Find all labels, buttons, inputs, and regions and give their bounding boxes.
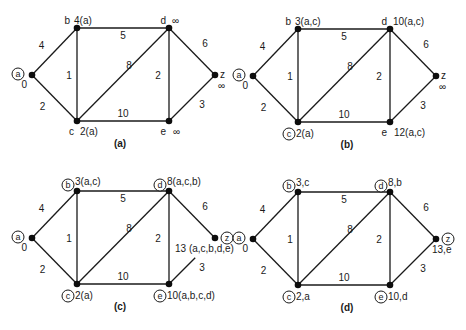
panel-caption: (b)	[341, 139, 354, 150]
panel-caption: (c)	[114, 301, 126, 312]
vertex-c	[295, 119, 302, 126]
edge-a-b	[32, 191, 77, 238]
vertex-distance-c: 2(a)	[80, 126, 98, 137]
vertex-b	[295, 189, 302, 196]
vertex-distance-z: 13,e	[432, 244, 452, 255]
edge-weight-e-z: 3	[420, 100, 426, 111]
vertex-name-a: a	[236, 70, 241, 80]
panel-caption: (d)	[341, 302, 354, 313]
vertex-name-e: e	[160, 126, 166, 137]
edge-weight-d-e: 2	[376, 234, 382, 245]
graph-panel-a: 4215810263a0b4(a)c2(a)d∞e∞z∞(a)	[12, 15, 225, 149]
vertex-b	[74, 188, 81, 195]
dijkstra-figure: 4215810263a0b4(a)c2(a)d∞e∞z∞(a)421581026…	[0, 0, 466, 330]
vertex-distance-b: 3(a,c)	[75, 176, 101, 187]
edge-weight-c-d: 8	[347, 61, 353, 72]
edge-weight-d-e: 2	[376, 71, 382, 82]
edge-d-z	[390, 192, 436, 239]
vertex-name-c: c	[287, 129, 292, 139]
vertex-name-e: e	[381, 127, 387, 138]
vertex-d	[387, 189, 394, 196]
edge-e-z	[169, 258, 195, 284]
vertex-name-c: c	[66, 291, 71, 301]
edge-weight-b-c: 1	[66, 70, 72, 81]
vertex-e	[387, 119, 394, 126]
edge-weight-c-e: 10	[117, 271, 129, 282]
vertex-name-d: d	[378, 181, 383, 191]
vertex-distance-e: 10,d	[388, 291, 407, 302]
edge-a-b	[253, 29, 298, 76]
graph-panel-b: 4215810263a0b3(a,c)c2(a)d10(a,c)e12(a,c)…	[233, 16, 446, 150]
edge-d-z	[390, 29, 436, 76]
graph-panel-c: 4215810263a0b3(a,c)c2(a)d8(a,c,b)e10(a,b…	[12, 176, 234, 312]
edge-weight-d-e: 2	[155, 233, 161, 244]
vertex-name-d: d	[160, 15, 166, 26]
vertex-z	[212, 72, 219, 79]
vertex-name-z: z	[446, 234, 451, 244]
edge-weight-d-z: 6	[423, 202, 429, 213]
vertex-distance-c: 2(a)	[296, 128, 314, 139]
vertex-c	[74, 281, 81, 288]
edge-weight-b-d: 5	[120, 30, 126, 41]
edge-weight-c-d: 8	[126, 60, 132, 71]
edge-e-z	[169, 75, 215, 121]
vertex-a	[250, 236, 257, 243]
edge-weight-c-d: 8	[126, 223, 132, 234]
vertex-distance-c: 2,a	[296, 291, 310, 302]
vertex-distance-z: 13 (a,c,b,d,e)	[175, 243, 234, 254]
graph-panel-d: 4215810263a0b3,cc2,ad8,be10,dz13,e(d)	[233, 177, 454, 313]
vertex-a	[29, 72, 36, 79]
edge-weight-d-e: 2	[155, 70, 161, 81]
vertex-distance-d: ∞	[172, 15, 179, 26]
vertex-distance-b: 3,c	[296, 177, 309, 188]
edge-a-b	[32, 28, 77, 75]
edge-weight-d-z: 6	[202, 201, 208, 212]
vertex-c	[295, 282, 302, 289]
vertex-distance-a: 0	[21, 79, 27, 90]
vertex-name-b: b	[286, 181, 291, 191]
vertex-distance-b: 3(a,c)	[295, 16, 321, 27]
vertex-z	[433, 73, 440, 80]
vertex-name-z: z	[441, 70, 446, 81]
vertex-distance-e: ∞	[173, 126, 180, 137]
vertex-distance-c: 2(a)	[75, 290, 93, 301]
edge-a-c	[32, 238, 77, 284]
edge-a-b	[253, 192, 298, 239]
vertex-name-c: c	[69, 126, 74, 137]
vertex-distance-a: 0	[242, 243, 248, 254]
edge-weight-a-b: 4	[260, 204, 266, 215]
panel-caption: (a)	[114, 138, 126, 149]
vertex-e	[387, 282, 394, 289]
vertex-name-z: z	[220, 69, 225, 80]
edge-e-z	[390, 239, 436, 285]
edge-weight-c-d: 8	[347, 224, 353, 235]
edge-weight-e-z: 3	[199, 262, 205, 273]
edge-weight-a-c: 2	[40, 264, 46, 275]
vertex-distance-b: 4(a)	[74, 15, 92, 26]
vertex-c	[74, 118, 81, 125]
vertex-name-c: c	[287, 292, 292, 302]
edge-e-z	[390, 76, 436, 122]
edge-weight-a-c: 2	[40, 101, 46, 112]
edge-weight-a-b: 4	[260, 41, 266, 52]
vertex-distance-e: 12(a,c)	[394, 127, 425, 138]
vertex-z	[433, 236, 440, 243]
edge-weight-a-c: 2	[261, 265, 267, 276]
vertex-name-d: d	[381, 16, 387, 27]
edge-weight-b-c: 1	[66, 233, 72, 244]
vertex-name-b: b	[65, 180, 70, 190]
edge-weight-e-z: 3	[199, 99, 205, 110]
vertex-name-b: b	[64, 15, 70, 26]
vertex-distance-a: 0	[242, 80, 248, 91]
vertex-distance-z: ∞	[218, 80, 225, 91]
edge-weight-c-e: 10	[117, 108, 129, 119]
edge-weight-c-e: 10	[338, 272, 350, 283]
vertex-e	[166, 281, 173, 288]
edge-weight-b-c: 1	[287, 234, 293, 245]
vertex-distance-z: ∞	[439, 81, 446, 92]
edge-d-z	[169, 28, 215, 75]
edge-weight-c-e: 10	[338, 109, 350, 120]
vertex-distance-a: 0	[21, 242, 27, 253]
edge-weight-d-z: 6	[423, 39, 429, 50]
vertex-distance-d: 10(a,c)	[393, 16, 424, 27]
